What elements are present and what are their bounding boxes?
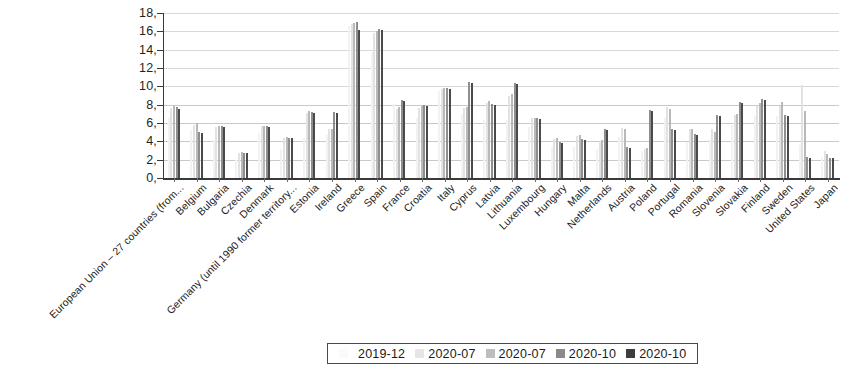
x-axis-tick <box>760 178 761 182</box>
x-axis-tick <box>647 178 648 182</box>
x-axis-tick <box>242 178 243 182</box>
bar-group <box>749 13 772 178</box>
y-axis-tick-label: 4, <box>117 135 157 147</box>
chart-legend: 2019-122020-072020-072020-102020-10 <box>327 343 698 364</box>
x-axis-tick <box>580 178 581 182</box>
x-axis-tick <box>355 178 356 182</box>
legend-swatch-icon <box>556 349 565 358</box>
bar <box>336 113 338 178</box>
bar <box>516 84 518 178</box>
x-axis-tick <box>174 178 175 182</box>
x-axis-tick <box>264 178 265 182</box>
bar <box>651 111 653 178</box>
x-axis-tick <box>557 178 558 182</box>
bar-group <box>163 13 186 178</box>
x-axis-tick <box>445 178 446 182</box>
legend-item: 2020-10 <box>556 347 616 361</box>
y-axis-tick-label: 0, <box>117 172 157 184</box>
bar-group <box>186 13 209 178</box>
legend-label: 2020-10 <box>569 347 616 361</box>
legend-label: 2019-12 <box>358 347 405 361</box>
y-axis-tick-label: 6, <box>117 117 157 129</box>
x-axis-tick <box>805 178 806 182</box>
bar <box>741 103 743 178</box>
x-axis-tick <box>467 178 468 182</box>
bar-group <box>614 13 637 178</box>
legend-label: 2020-07 <box>499 347 546 361</box>
bar-group <box>388 13 411 178</box>
y-axis-tick-label: 18, <box>117 7 157 19</box>
bar <box>809 158 811 178</box>
bar <box>268 127 270 178</box>
bar <box>674 130 676 178</box>
bar <box>719 116 721 178</box>
bar-group <box>816 13 839 178</box>
bar <box>629 148 631 178</box>
legend-swatch-icon <box>415 349 424 358</box>
y-axis-tick <box>157 178 164 179</box>
bar <box>201 133 203 178</box>
x-axis-tick <box>828 178 829 182</box>
bar-group <box>478 13 501 178</box>
x-axis-tick <box>377 178 378 182</box>
bar-chart: European Union – 27 countries (from...Be… <box>0 0 852 372</box>
y-axis-tick-label: 10, <box>117 80 157 92</box>
x-axis-tick <box>693 178 694 182</box>
bar-group <box>704 13 727 178</box>
bar-group <box>524 13 547 178</box>
x-axis-tick <box>422 178 423 182</box>
x-axis-tick <box>219 178 220 182</box>
y-axis-tick-label: 16, <box>117 25 157 37</box>
bar <box>539 119 541 178</box>
bar-group <box>253 13 276 178</box>
x-axis-tick <box>738 178 739 182</box>
bar <box>561 143 563 178</box>
legend-swatch-icon <box>339 349 348 358</box>
legend-item: 2020-07 <box>415 347 475 361</box>
y-axis-tick-label: 8, <box>117 99 157 111</box>
bar-group <box>591 13 614 178</box>
bar <box>584 140 586 179</box>
bar-group <box>794 13 817 178</box>
x-axis-tick <box>332 178 333 182</box>
bar-group <box>501 13 524 178</box>
x-axis-category-label: Japan <box>811 182 839 210</box>
bar-group <box>231 13 254 178</box>
legend-swatch-icon <box>486 349 495 358</box>
bar-group <box>681 13 704 178</box>
bar <box>606 130 608 178</box>
bar-group <box>726 13 749 178</box>
bar-group <box>636 13 659 178</box>
x-axis-tick <box>625 178 626 182</box>
bar-group <box>343 13 366 178</box>
x-axis-tick <box>512 178 513 182</box>
x-axis-tick <box>287 178 288 182</box>
bar-group <box>298 13 321 178</box>
x-axis-tick <box>400 178 401 182</box>
bar <box>358 30 360 179</box>
y-axis-tick-label: 12, <box>117 62 157 74</box>
bar-group <box>321 13 344 178</box>
y-axis-tick-label: 2, <box>117 154 157 166</box>
bar <box>449 89 451 178</box>
bar-group <box>433 13 456 178</box>
bar <box>764 100 766 178</box>
legend-item: 2020-07 <box>486 347 546 361</box>
bar <box>313 113 315 178</box>
bar-group <box>569 13 592 178</box>
bar <box>178 109 180 178</box>
legend-swatch-icon <box>626 349 635 358</box>
x-axis-tick <box>535 178 536 182</box>
bar <box>494 105 496 178</box>
x-axis-tick <box>670 178 671 182</box>
legend-item: 2019-12 <box>339 347 405 361</box>
bar <box>696 135 698 178</box>
bar <box>426 106 428 178</box>
bar-group <box>366 13 389 178</box>
bar <box>381 30 383 179</box>
x-axis-labels: European Union – 27 countries (from...Be… <box>0 180 852 365</box>
bar <box>787 116 789 178</box>
x-axis-tick <box>783 178 784 182</box>
bar-group <box>208 13 231 178</box>
legend-label: 2020-07 <box>428 347 475 361</box>
